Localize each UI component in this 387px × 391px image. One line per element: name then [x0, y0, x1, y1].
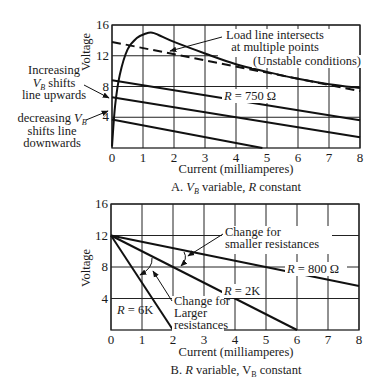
label-r-750: R = 750 Ω	[223, 89, 276, 103]
annotation-unstable: (Unstable conditions)	[253, 54, 361, 68]
y-tick-label: 16	[96, 17, 110, 32]
x-tick-label: 2	[171, 150, 178, 165]
y-tick-label: 12	[96, 48, 109, 63]
chart-a: 012345678 481216 Voltage Current (millia…	[17, 17, 363, 196]
annotation-larger-3: resistances	[174, 318, 228, 332]
x-tick-label: 0	[109, 150, 116, 165]
chart-b-xlabel: Current (milliamperes)	[179, 345, 294, 359]
chart-b: 012345678 481216 Voltage Current (millia…	[79, 196, 362, 379]
x-tick-label: 6	[295, 150, 302, 165]
y-tick-label: 12	[95, 228, 108, 243]
chart-b-caption: B. R variable, VB constant	[171, 363, 302, 379]
annotation-increasing: Increasing	[28, 63, 81, 77]
chart-a-xlabel: Current (milliamperes)	[179, 162, 294, 176]
x-tick-label: 7	[326, 150, 333, 165]
x-tick-label: 0	[108, 332, 115, 347]
larger-arrow	[153, 271, 172, 301]
chart-b-y-ticks: 481216	[95, 196, 109, 306]
annotation-smaller-2: smaller resistances	[225, 237, 319, 251]
x-tick-label: 6	[294, 332, 301, 347]
x-tick-label: 1	[139, 332, 146, 347]
smaller-arc-icon	[181, 252, 185, 266]
y-tick-label: 4	[102, 291, 109, 306]
y-tick-label: 16	[95, 196, 109, 211]
annotation-load-line-2: at multiple points	[231, 40, 319, 54]
series-line	[112, 120, 262, 148]
figure: 012345678 481216 Voltage Current (millia…	[0, 0, 387, 391]
y-tick-label: 8	[102, 259, 109, 274]
label-r-800: R = 800 Ω	[286, 262, 339, 276]
chart-a-caption: A. VB variable, R constant	[171, 180, 301, 196]
x-tick-label: 8	[357, 150, 364, 165]
chart-b-ylabel: Voltage	[79, 249, 93, 287]
chart-a-ylabel: Voltage	[79, 33, 93, 71]
annotation-increasing-3: line upwards	[22, 88, 86, 102]
label-r-6k: R = 6K	[116, 303, 153, 317]
x-tick-label: 8	[356, 332, 363, 347]
smaller-arrow	[188, 234, 223, 256]
annotation-decreasing-3: downwards	[23, 136, 81, 150]
x-tick-label: 1	[140, 150, 147, 165]
chart-a-y-ticks: 481216	[96, 17, 110, 124]
x-tick-label: 7	[325, 332, 332, 347]
y-tick-label: 8	[103, 79, 110, 94]
